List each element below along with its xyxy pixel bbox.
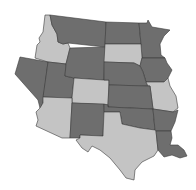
state-minnesota[interactable] bbox=[139, 20, 170, 58]
state-wyoming[interactable] bbox=[65, 47, 105, 80]
state-north-dakota[interactable] bbox=[105, 22, 141, 44]
state-colorado[interactable] bbox=[72, 78, 109, 105]
state-new-mexico[interactable] bbox=[70, 103, 104, 138]
map bbox=[0, 0, 196, 190]
state-arkansas[interactable] bbox=[153, 109, 178, 131]
state-kansas[interactable] bbox=[108, 85, 153, 109]
state-montana[interactable] bbox=[50, 15, 106, 47]
state-louisiana[interactable] bbox=[156, 131, 187, 158]
